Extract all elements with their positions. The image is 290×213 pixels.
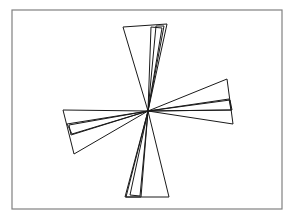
diagram-frame — [12, 10, 282, 209]
triangle-down-inner-2 — [126, 111, 148, 197]
radial-triangles-diagram — [0, 0, 290, 213]
triangle-left-wide — [63, 110, 148, 154]
triangle-down-inner-1 — [130, 111, 148, 196]
triangle-group — [63, 24, 233, 197]
